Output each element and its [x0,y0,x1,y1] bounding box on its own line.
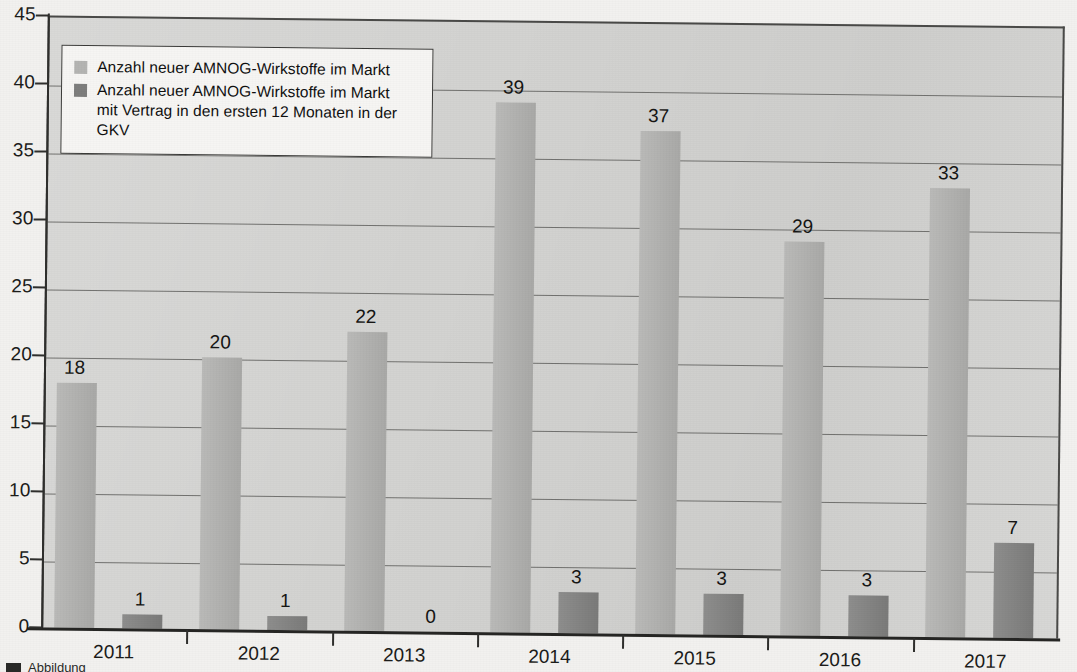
x-axis: 2011201220132014201520162017 [0,0,1077,12]
bar [926,188,971,637]
y-axis-label: 45 [0,3,36,25]
bar-shading [267,616,307,630]
bar-shading [122,615,162,629]
x-axis-label: 2016 [800,649,880,672]
y-axis-label: 30 [0,207,34,229]
bar-shading [703,594,743,635]
bar [994,543,1035,639]
bar [558,592,598,633]
y-axis-label: 25 [0,275,33,297]
bar-shading [780,241,824,636]
x-axis-label: 2011 [73,641,153,664]
bar-value-label: 37 [628,105,688,128]
bar-value-label: 3 [546,566,606,589]
y-axis-tick [29,626,42,628]
y-axis-tick [36,14,49,16]
caption-marker-icon [6,663,21,672]
bar-value-label: 20 [190,331,250,354]
x-axis-tick [477,633,479,647]
legend-label: Anzahl neuer AMNOG-Wirkstoffe im Markt [97,57,390,80]
gridlines [50,18,1063,29]
bar [267,616,307,630]
y-axis-tick [31,490,44,492]
y-axis-label: 15 [0,411,32,433]
bar [54,383,97,628]
legend-label-line2: mit Vertrag in den ersten 12 Monaten in … [96,100,419,143]
caption-text: Abbildung [28,663,86,672]
y-axis-tick [34,150,47,152]
bar-shading [848,595,888,636]
legend-item: Anzahl neuer AMNOG-Wirkstoffe im Markt [74,57,420,81]
x-axis-tick [332,632,334,646]
bar [703,594,743,635]
gridline [45,494,1058,506]
bar-shading [199,357,242,629]
bar-shading [54,383,97,628]
legend-item: Anzahl neuer AMNOG-Wirkstoffe im Markt m… [73,80,420,144]
y-axis-tick [31,422,44,424]
legend-label-line1: Anzahl neuer AMNOG-Wirkstoffe im Markt [97,81,390,101]
bar-value-label: 22 [336,305,396,328]
x-axis-label: 2012 [219,642,299,665]
y-axis-tick [30,558,43,560]
bar [199,357,242,629]
bar-value-label: 1 [110,589,170,612]
x-axis-tick [767,636,769,650]
y-axis-tick [33,286,46,288]
y-axis-tick [35,82,48,84]
x-axis-tick [913,638,915,652]
bar-value-label: 33 [918,162,978,185]
y-axis-label: 20 [0,343,32,365]
bar [344,332,387,632]
legend-swatch-dark-icon [74,84,87,97]
bar-shading [994,543,1035,639]
bar-shading [558,592,598,633]
y-axis-label: 0 [0,615,29,637]
y-axis-label: 35 [0,139,34,161]
y-axis-label: 10 [0,479,31,501]
bar-value-label: 18 [45,357,105,380]
bar [490,102,536,633]
bar-value-label: 0 [400,605,460,628]
bar-value-labels: 181201220393373293337 [0,0,1077,12]
legend-swatch-light-icon [74,61,87,74]
bar [780,241,824,636]
x-axis-label: 2017 [945,650,1025,672]
bar-shading [490,102,536,633]
gridline [48,154,1061,166]
gridline [47,290,1060,302]
legend-label: Anzahl neuer AMNOG-Wirkstoffe im Markt m… [96,80,420,143]
bar [635,131,680,635]
x-axis-tick [186,630,188,644]
y-axis-tick [32,354,45,356]
chart-figure: 051015202530354045 201120122013201420152… [0,0,1077,672]
chart-legend: Anzahl neuer AMNOG-Wirkstoffe im Markt A… [60,45,433,158]
bar-value-label: 39 [483,76,543,99]
scanned-figure-page: 051015202530354045 201120122013201420152… [0,0,1077,672]
x-axis-label: 2015 [655,647,735,670]
gridline [46,358,1059,370]
bar-value-label: 3 [837,569,897,592]
y-axis: 051015202530354045 [0,0,1077,12]
gridline [45,426,1058,438]
bar-shading [926,188,971,637]
bars-layer [50,18,1063,29]
bar [848,595,888,636]
y-axis-label: 5 [0,547,30,569]
x-axis-label: 2014 [509,646,589,669]
bar-shading [344,332,387,632]
x-axis-label: 2013 [364,644,444,667]
bar-value-label: 29 [773,215,833,238]
bar [122,615,162,629]
y-axis-tick [34,218,47,220]
bar-value-label: 7 [983,516,1043,539]
bar-shading [635,131,680,635]
y-axis-label: 40 [0,71,35,93]
gridline [48,222,1061,234]
x-axis-tick [622,635,624,649]
bar-value-label: 1 [255,590,315,613]
figure-caption: Abbildung [6,663,86,672]
bar-value-label: 3 [691,568,751,591]
